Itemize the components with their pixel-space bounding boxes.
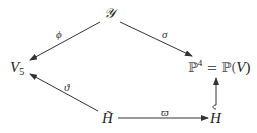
node-P4-eq: = ℙ( <box>202 60 236 75</box>
node-H: H <box>210 111 221 126</box>
node-P4: ℙ4 = ℙ(V) <box>188 59 250 75</box>
arrow-phi <box>30 22 100 60</box>
label-varpi: ϖ <box>161 107 169 118</box>
node-P4-base: ℙ <box>188 60 198 75</box>
arrow-sigma <box>120 22 192 56</box>
label-phi: ϕ <box>56 29 62 40</box>
node-Y: 𝒴 <box>104 6 115 20</box>
node-V5-base: V <box>10 59 19 75</box>
node-Htilde: H̃ <box>102 111 113 126</box>
node-V5: V5 <box>10 60 24 77</box>
label-theta: ϑ <box>64 82 69 93</box>
label-sigma: σ <box>162 29 167 40</box>
node-V5-sub: 5 <box>19 66 24 77</box>
arrow-hook-inclusion <box>213 78 216 109</box>
node-P4-close: ) <box>245 59 250 75</box>
